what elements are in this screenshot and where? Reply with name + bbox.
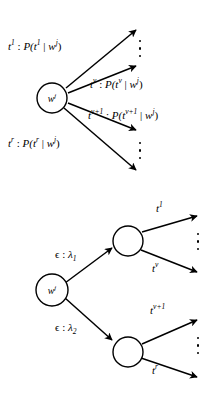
intermediate-node-lower — [113, 337, 143, 367]
figure-container: wj wj t1 : P(t1 | wj) tv : P(tv | wj) tv… — [0, 0, 216, 394]
ellipsis-bottom-upper — [197, 233, 200, 250]
leaf-label-tv1: tv+1 — [150, 305, 165, 316]
intermediate-node-upper — [113, 226, 143, 256]
edge-leaf-t1 — [142, 216, 197, 232]
branch-label-tv1: tv+1 : P(tv+1 | wj) — [88, 110, 158, 121]
edge-leaf-tr — [141, 358, 197, 377]
edge-label-lambda1: ϵ : λ1 — [55, 249, 77, 260]
ellipsis-top-lower — [139, 142, 142, 159]
edge-leaf-tv — [141, 250, 197, 272]
leaf-label-tv: tv — [152, 263, 158, 274]
leaf-label-t1: t1 — [156, 203, 163, 214]
ellipsis-bottom-lower — [197, 337, 200, 354]
ellipsis-top-upper — [139, 40, 142, 57]
edge-leaf-tv1 — [142, 320, 197, 344]
branch-label-tv: tv : P(tv | wj) — [90, 79, 143, 90]
branch-label-tr: tr : P(tr | wj) — [8, 138, 60, 149]
hierarchical-emission-tree-edges: wj — [36, 216, 197, 377]
diagram-canvas: wj wj — [0, 0, 216, 394]
branch-label-t1: t1 : P(t1 | wj) — [8, 41, 61, 52]
leaf-label-tr: tr — [152, 365, 158, 376]
edge-label-lambda2: ϵ : λ2 — [55, 322, 77, 333]
